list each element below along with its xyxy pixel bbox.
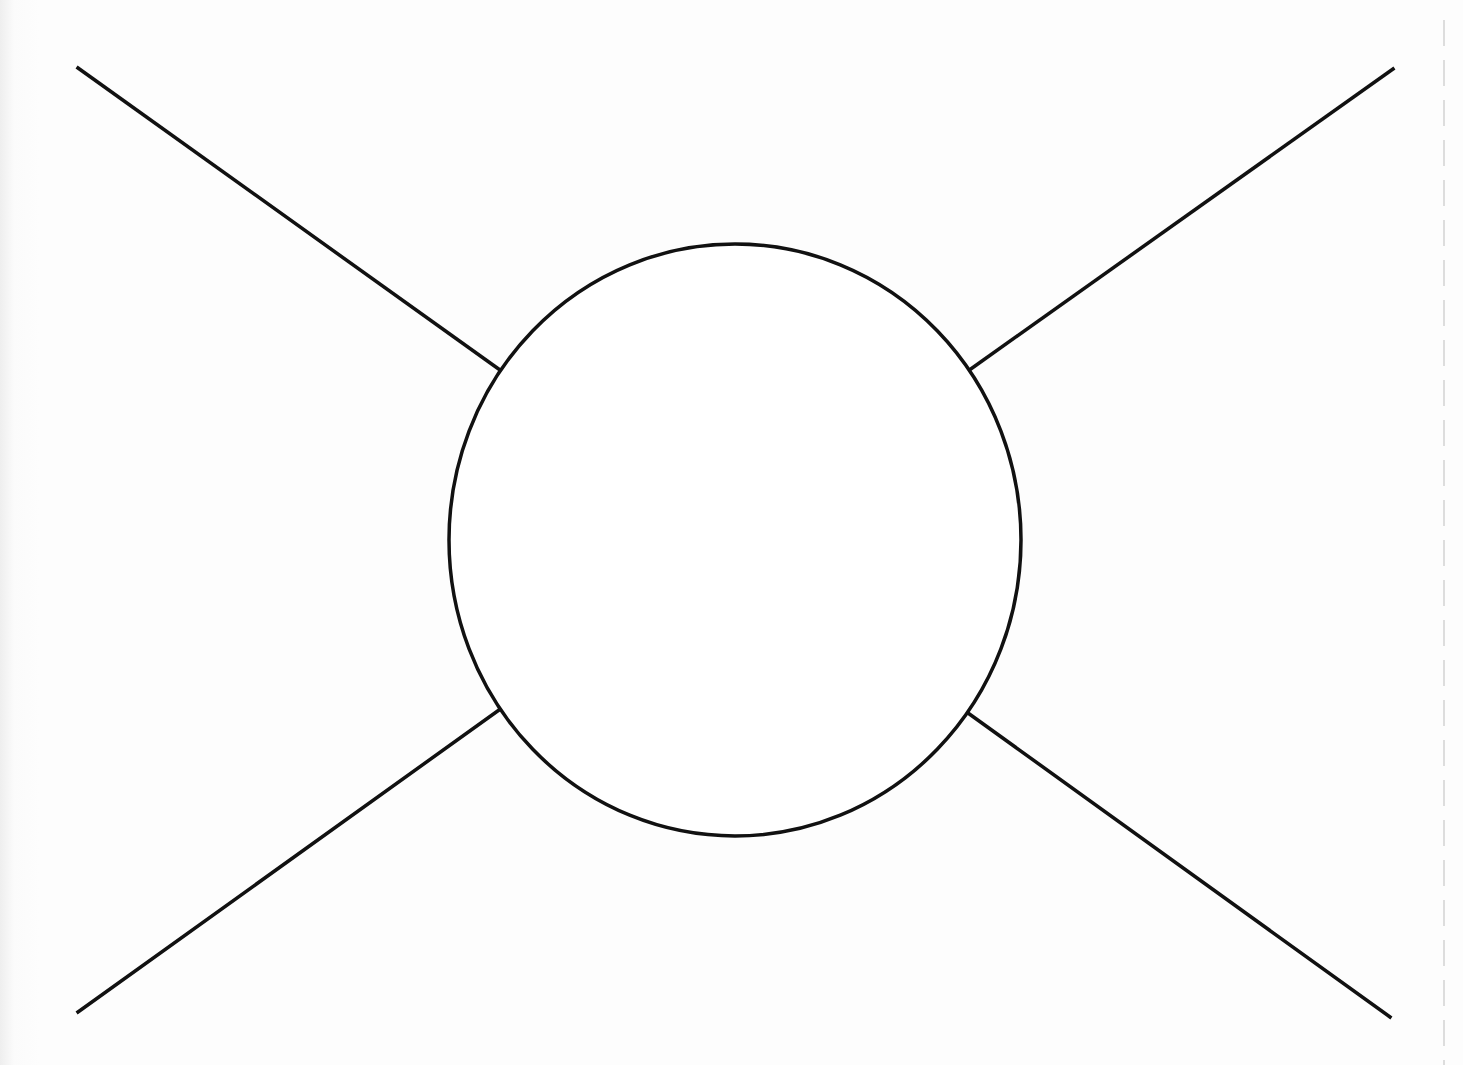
central-blob-circle	[449, 244, 1021, 836]
leg-bottom-left	[78, 710, 499, 1012]
leg-top-left	[78, 68, 500, 370]
leg-top-right	[968, 69, 1393, 371]
leg-bottom-right	[968, 713, 1390, 1017]
diagram-canvas	[0, 0, 1463, 1065]
four-leg-vertex-diagram	[0, 0, 1463, 1065]
